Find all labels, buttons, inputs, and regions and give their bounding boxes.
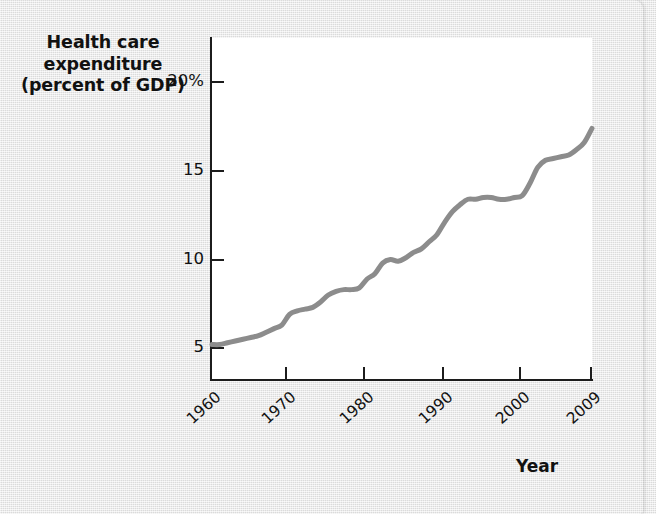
y-tick-mark	[212, 259, 224, 261]
y-tick-mark	[212, 81, 224, 83]
y-axis-tick-labels: 20%15105	[140, 0, 204, 514]
x-tick-mark	[363, 367, 365, 380]
y-tick-label: 15	[144, 160, 204, 179]
y-axis-line	[210, 37, 212, 381]
x-tick-mark	[590, 367, 592, 380]
y-tick-label: 20%	[144, 71, 204, 90]
x-axis-line	[210, 379, 593, 381]
y-tick-label: 5	[144, 337, 204, 356]
x-axis-title: Year	[516, 456, 558, 476]
y-tick-label: 10	[144, 249, 204, 268]
chart-figure: Health care expenditure (percent of GDP)…	[0, 0, 656, 514]
x-tick-mark	[442, 367, 444, 380]
plot-area	[212, 38, 592, 380]
x-tick-mark	[285, 367, 287, 380]
y-tick-mark	[212, 170, 224, 172]
y-tick-mark	[212, 347, 224, 349]
x-tick-mark	[210, 367, 212, 380]
x-tick-mark	[519, 367, 521, 380]
